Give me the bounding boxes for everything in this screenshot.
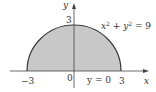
diagram-canvas: y x 3 −3 0 3 y = 0 x2 + y2 = 9 [0,0,156,92]
x-axis-arrow-icon [143,69,149,73]
x-tick-neg3: −3 [21,76,35,86]
line-equation-label: y = 0 [86,75,111,85]
origin-label: 0 [67,73,73,83]
curve-equation-label: x2 + y2 = 9 [101,20,151,31]
y-axis-label: y [62,0,69,10]
y-tick-3: 3 [66,15,72,25]
y-axis-arrow-icon [72,3,76,9]
x-axis-label: x [144,76,149,86]
x-tick-3: 3 [119,76,125,86]
half-disk-figure: y x 3 −3 0 3 y = 0 x2 + y2 = 9 [0,0,156,92]
